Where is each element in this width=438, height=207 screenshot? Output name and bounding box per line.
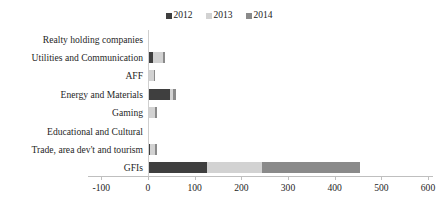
bar-segment[interactable] [207, 162, 262, 173]
plot-area: Realty holding companiesUtilities and Co… [0, 30, 438, 177]
legend-item-2012[interactable]: 2012 [166, 11, 193, 21]
bar-row[interactable] [148, 144, 157, 155]
legend-label-2013: 2013 [214, 11, 233, 21]
x-axis-tick-mark [101, 176, 102, 180]
x-axis-tick-label: 0 [146, 182, 151, 193]
legend-swatch-2012 [166, 13, 172, 19]
bar-segment[interactable] [155, 107, 156, 118]
x-axis-tick-mark [288, 176, 289, 180]
legend-swatch-2014 [246, 13, 252, 19]
bar-segment[interactable] [262, 162, 360, 173]
x-axis-tick-label: 200 [234, 182, 248, 193]
bar-row[interactable] [148, 89, 176, 100]
x-axis-tick-label: 300 [281, 182, 295, 193]
x-axis-tick-mark [195, 176, 196, 180]
legend-label-2012: 2012 [174, 11, 193, 21]
bar-segment[interactable] [154, 70, 155, 81]
x-axis-tick-mark [148, 176, 149, 180]
chart-legend: 2012 2013 2014 [0, 9, 438, 23]
bar-segment[interactable] [163, 52, 165, 63]
x-axis-tick-mark [335, 176, 336, 180]
bar-row[interactable] [148, 162, 360, 173]
x-axis-tick-label: 500 [374, 182, 388, 193]
bar-row[interactable] [148, 107, 157, 118]
legend-swatch-2013 [206, 13, 212, 19]
x-axis-tick-label: 600 [421, 182, 435, 193]
bar-segment[interactable] [153, 52, 163, 63]
x-axis-tick-mark [428, 176, 429, 180]
x-axis-tick-mark [381, 176, 382, 180]
x-axis-tick-label: 100 [187, 182, 201, 193]
bar-segment[interactable] [155, 144, 156, 155]
bar-chart: 2012 2013 2014 Realty holding companiesU… [0, 0, 438, 207]
bar-segment[interactable] [148, 162, 207, 173]
bar-segment[interactable] [173, 89, 175, 100]
x-axis-tick-label: -100 [93, 182, 111, 193]
legend-item-2014[interactable]: 2014 [246, 11, 273, 21]
bars-layer [0, 30, 438, 177]
x-axis-tick-label: 400 [327, 182, 341, 193]
legend-item-2013[interactable]: 2013 [206, 11, 233, 21]
y-axis-line [148, 30, 149, 177]
bar-segment[interactable] [148, 89, 170, 100]
legend-label-2014: 2014 [254, 11, 273, 21]
x-axis-tick-mark [241, 176, 242, 180]
bar-row[interactable] [148, 52, 165, 63]
